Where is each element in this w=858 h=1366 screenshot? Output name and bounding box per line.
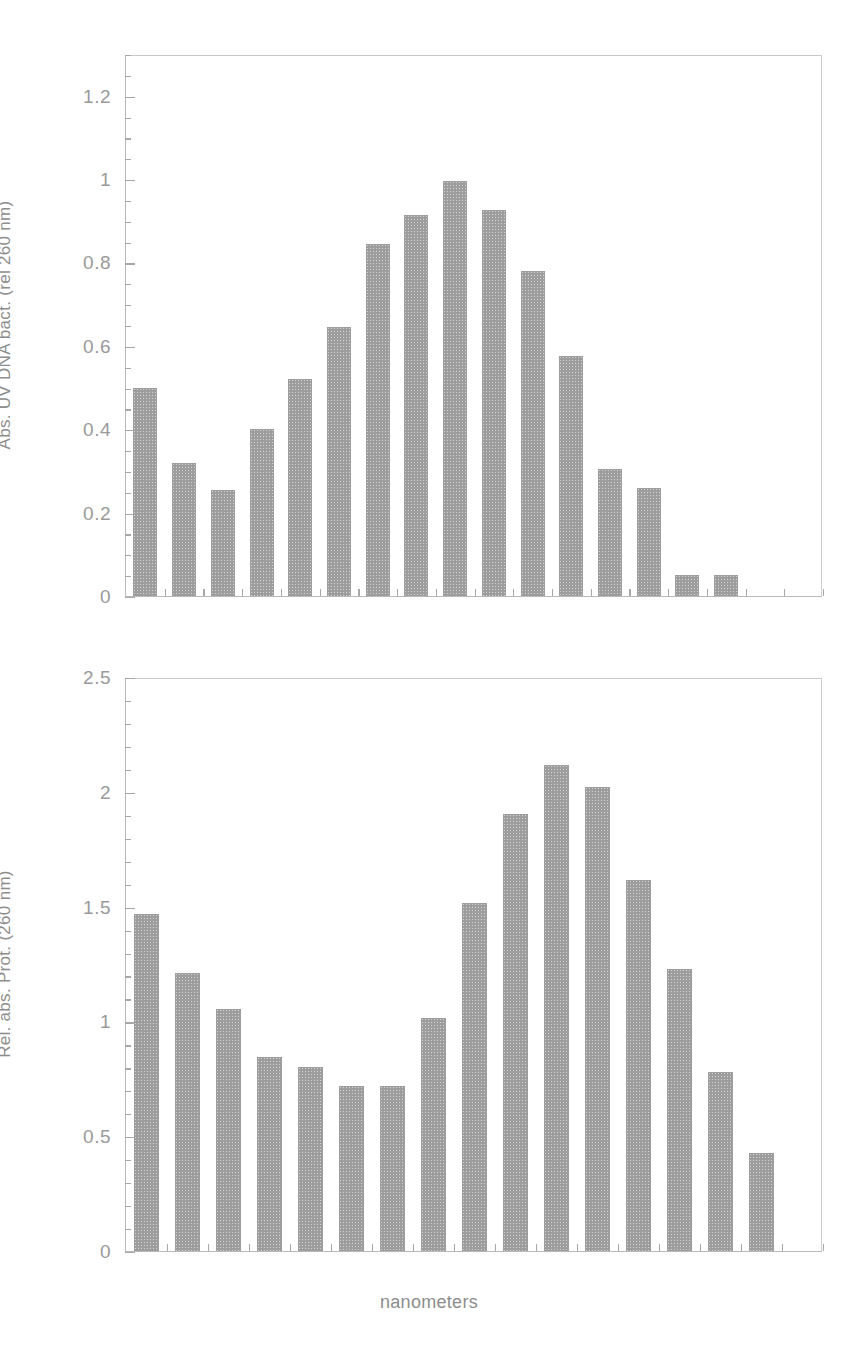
x-axis-tick [823, 589, 824, 596]
plot-area-top [125, 55, 822, 597]
y-axis-minor-tick [125, 770, 131, 771]
y-axis-minor-tick [125, 368, 131, 369]
x-axis-tick [320, 589, 321, 596]
y-axis-minor-tick [125, 747, 131, 748]
y-axis-minor-tick [125, 534, 131, 535]
y-axis-minor-tick [125, 76, 131, 77]
bar [298, 1067, 323, 1251]
y-axis-minor-tick [125, 201, 131, 202]
x-axis-tick [536, 1244, 537, 1251]
y-axis-major-tick [125, 793, 135, 794]
y-axis-tick-label: 0.8 [39, 252, 111, 274]
bar [637, 488, 661, 596]
bar [366, 244, 390, 596]
x-axis-tick [591, 589, 592, 596]
y-axis-minor-tick [125, 1183, 131, 1184]
y-axis-minor-tick [125, 555, 131, 556]
y-axis-title-top: Abs. UV DNA bact. (rel 260 nm) [0, 54, 15, 596]
x-axis-tick [629, 589, 630, 596]
x-axis-tick [707, 589, 708, 596]
y-axis-major-tick [125, 597, 135, 598]
bar [503, 814, 528, 1251]
y-axis-major-tick [125, 1137, 135, 1138]
y-axis-minor-tick [125, 389, 131, 390]
y-axis-minor-tick [125, 472, 131, 473]
x-axis-tick [167, 1244, 168, 1251]
x-axis-tick [242, 589, 243, 596]
y-axis-tick-label: 1.2 [39, 86, 111, 108]
bar [327, 327, 351, 596]
y-axis-tick-label: 0.6 [39, 336, 111, 358]
y-axis-minor-tick [125, 816, 131, 817]
y-axis-tick-label: 1 [39, 169, 111, 191]
bar [626, 880, 651, 1251]
y-axis-minor-tick [125, 976, 131, 977]
y-axis-minor-tick [125, 451, 131, 452]
y-axis-minor-tick [125, 999, 131, 1000]
bar [708, 1072, 733, 1251]
y-axis-minor-tick [125, 1206, 131, 1207]
y-axis-major-tick [125, 430, 135, 431]
y-axis-minor-tick [125, 305, 131, 306]
y-axis-tick-label: 0 [39, 1241, 111, 1263]
y-axis-minor-tick [125, 326, 131, 327]
x-axis-tick [700, 1244, 701, 1251]
bar [749, 1153, 774, 1251]
chart-panel-top: Abs. UV DNA bact. (rel 260 nm) 00.20.40.… [0, 40, 858, 620]
y-axis-major-tick [125, 347, 135, 348]
x-axis-tick [281, 589, 282, 596]
y-axis-tick-label: 1 [39, 1011, 111, 1033]
x-axis-tick [668, 589, 669, 596]
bar [714, 575, 738, 596]
y-axis-tick-label: 0.5 [39, 1126, 111, 1148]
bar [521, 271, 545, 596]
bar [482, 210, 506, 596]
bar [404, 215, 428, 596]
bar [250, 429, 274, 596]
y-axis-minor-tick [125, 839, 131, 840]
x-axis-tick [495, 1244, 496, 1251]
y-axis-major-tick [125, 514, 135, 515]
x-axis-tick [784, 589, 785, 596]
y-axis-tick-label: 0 [39, 586, 111, 608]
x-axis-tick [454, 1244, 455, 1251]
y-axis-minor-tick [125, 724, 131, 725]
x-axis-tick [741, 1244, 742, 1251]
x-axis-title: nanometers [0, 1292, 858, 1313]
x-axis-tick [618, 1244, 619, 1251]
bar [544, 765, 569, 1251]
x-axis-tick [358, 589, 359, 596]
y-axis-major-tick [125, 180, 135, 181]
bar [175, 973, 200, 1251]
bar [172, 463, 196, 596]
x-axis-tick [475, 589, 476, 596]
y-axis-minor-tick [125, 885, 131, 886]
x-axis-tick [249, 1244, 250, 1251]
y-axis-tick-label: 2 [39, 782, 111, 804]
y-axis-minor-tick [125, 1045, 131, 1046]
bar [667, 969, 692, 1251]
bar [339, 1086, 364, 1251]
bar [585, 787, 610, 1251]
y-axis-minor-tick [125, 862, 131, 863]
x-axis-tick [165, 589, 166, 596]
bar [134, 914, 159, 1252]
bar [598, 469, 622, 596]
x-axis-tick [436, 589, 437, 596]
bar [133, 388, 157, 596]
y-axis-major-tick [125, 908, 135, 909]
bar [443, 181, 467, 596]
bar [211, 490, 235, 596]
y-axis-minor-tick [125, 954, 131, 955]
y-axis-minor-tick [125, 222, 131, 223]
x-axis-tick [208, 1244, 209, 1251]
x-axis-tick [659, 1244, 660, 1251]
y-axis-major-tick [125, 678, 135, 679]
bar [380, 1086, 405, 1251]
bar-series-bottom [126, 679, 821, 1251]
y-axis-major-tick [125, 1252, 135, 1253]
bar-series-top [126, 56, 821, 596]
x-axis-tick [372, 1244, 373, 1251]
x-axis-tick [290, 1244, 291, 1251]
y-axis-major-tick [125, 97, 135, 98]
